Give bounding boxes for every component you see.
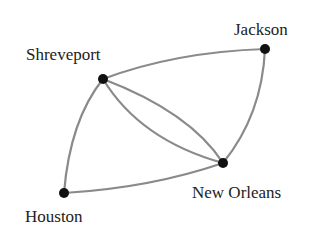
graph-svg: Shreveport Jackson New Orleans Houston [0,0,325,230]
edge-shreveport-new-orleans-upper [103,79,223,163]
node-shreveport [98,74,108,84]
node-new-orleans [218,158,228,168]
edge-shreveport-houston [64,79,103,193]
edge-jackson-new-orleans [223,49,265,163]
node-houston [59,188,69,198]
label-houston: Houston [25,207,83,226]
graph-diagram: Shreveport Jackson New Orleans Houston [0,0,325,230]
label-shreveport: Shreveport [26,45,101,64]
label-jackson: Jackson [234,20,288,39]
edge-shreveport-new-orleans-lower [103,79,223,163]
edge-shreveport-jackson [103,49,265,79]
node-jackson [260,44,270,54]
label-new-orleans: New Orleans [192,183,281,202]
